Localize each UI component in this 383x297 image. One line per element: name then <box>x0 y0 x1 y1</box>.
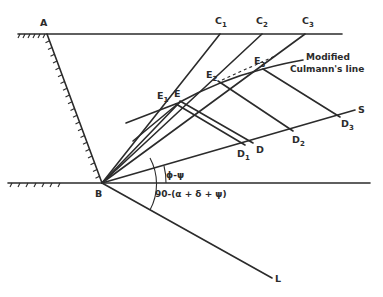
label-C2: C2 <box>256 15 268 29</box>
wall-hatch-tick <box>51 54 55 56</box>
line-E-D <box>180 101 253 143</box>
wall-hatch-tick <box>93 169 97 171</box>
angle-label-phi-psi: ϕ-ψ <box>166 170 184 180</box>
culmann-line-label-1: Modified <box>306 52 350 62</box>
label-C1: C1 <box>215 15 227 29</box>
line-E3-D3 <box>263 69 340 117</box>
modified-culmann-line <box>126 60 303 123</box>
label-A: A <box>40 17 48 28</box>
wall-hatch-tick <box>88 156 92 158</box>
wall-hatch-tick <box>81 136 85 138</box>
wall-hatch-tick <box>66 95 70 97</box>
wall-hatch-tick <box>86 149 90 151</box>
label-E2: E2 <box>206 69 218 83</box>
wall-hatch-tick <box>58 75 62 77</box>
wall-hatch-tick <box>96 176 100 178</box>
wall-hatch-tick <box>91 163 95 165</box>
angle-arc-lower <box>150 158 157 210</box>
label-C3: C3 <box>302 15 314 29</box>
wall-hatch-tick <box>73 115 77 117</box>
wall-hatch-tick <box>78 129 82 131</box>
wall-hatch-tick <box>61 81 65 83</box>
label-D1: D1 <box>237 148 250 162</box>
wall-hatch-tick <box>63 88 67 90</box>
wall-hatch-tick <box>71 109 75 111</box>
label-E: E <box>174 88 181 99</box>
wall-hatch <box>46 41 100 178</box>
line-E2-D2 <box>218 81 293 131</box>
wall-hatch-tick <box>68 102 72 104</box>
wall-hatch-tick <box>83 142 87 144</box>
label-E3: E3 <box>254 55 266 69</box>
label-D: D <box>256 144 264 155</box>
label-D3: D3 <box>341 118 354 132</box>
angle-label-lower: 90-(α + δ + ψ) <box>155 189 227 199</box>
culmann-diagram: A B C1 C2 C3 E1 E E2 E3 D1 D D2 D3 S L M… <box>0 0 383 297</box>
label-L: L <box>275 273 281 284</box>
wall-hatch-tick <box>46 41 50 43</box>
label-E1: E1 <box>157 90 169 104</box>
S-line <box>102 110 355 183</box>
label-S: S <box>358 104 365 115</box>
wall-hatch-tick <box>53 61 57 63</box>
culmann-line-label-2: Culmann's line <box>290 64 364 74</box>
line-B-E1-ext <box>133 102 180 141</box>
line-B-C3 <box>102 34 305 183</box>
label-D2: D2 <box>292 134 305 148</box>
wall-hatch-tick <box>76 122 80 124</box>
line-E1-D1 <box>176 104 245 145</box>
label-B: B <box>95 188 102 199</box>
wall-hatch-tick <box>48 48 52 50</box>
wall-hatch-tick <box>56 68 60 70</box>
